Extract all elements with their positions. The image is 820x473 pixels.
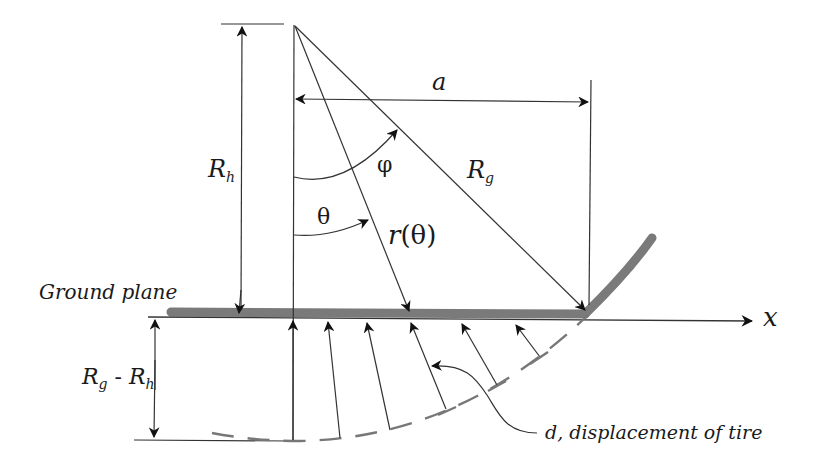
theta-arc [294,220,368,235]
a-right-extension [589,80,591,305]
label-rg: Rg [467,158,494,185]
label-rgrh-minus: - [108,364,129,389]
rh-dimension-line [241,27,242,310]
undeformed-tire-dashed-arc [212,315,588,441]
label-rh-main: R [208,155,226,183]
label-rg-sub: g [485,170,494,186]
label-rgrh-r1: R [82,364,99,389]
label-r-theta: r(θ) [388,222,436,248]
label-r-arg: (θ) [400,220,436,250]
label-ground-plane: Ground plane [39,282,177,302]
label-x-axis: x [763,304,778,330]
label-rh: Rh [208,157,235,184]
label-phi: φ [377,154,392,176]
label-rg-main: R [467,156,485,184]
label-a: a [432,70,446,94]
label-theta: θ [317,206,330,228]
displacement-arrows [293,321,548,440]
label-rgrh-sub2: h [146,376,155,392]
d-callout-leader [432,366,537,433]
label-d-displacement: d, displacement of tire [545,423,762,442]
label-r: r [388,220,400,250]
a-dimension-line [296,99,588,102]
label-rh-sub: h [226,169,235,185]
tire-diagram: a φ θ r(θ) Rh Rg Ground plane x Rg - Rh … [0,0,820,473]
label-rg-minus-rh: Rg - Rh [82,366,155,391]
label-rgrh-r2: R [129,364,146,389]
label-rgrh-sub1: g [99,376,108,392]
